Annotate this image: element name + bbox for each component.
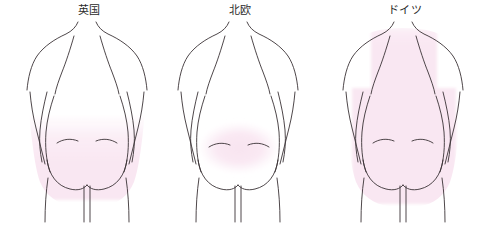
figure-label-uk: 英国 xyxy=(78,3,101,17)
figure-label-germany: ドイツ xyxy=(388,4,423,17)
highlight-sacral-patch xyxy=(198,122,280,174)
anatomy-diagram-svg: 英国 xyxy=(0,0,478,230)
anatomy-figure-panel: 英国 xyxy=(0,0,478,230)
figure-label-nordic: 北欧 xyxy=(229,4,252,17)
